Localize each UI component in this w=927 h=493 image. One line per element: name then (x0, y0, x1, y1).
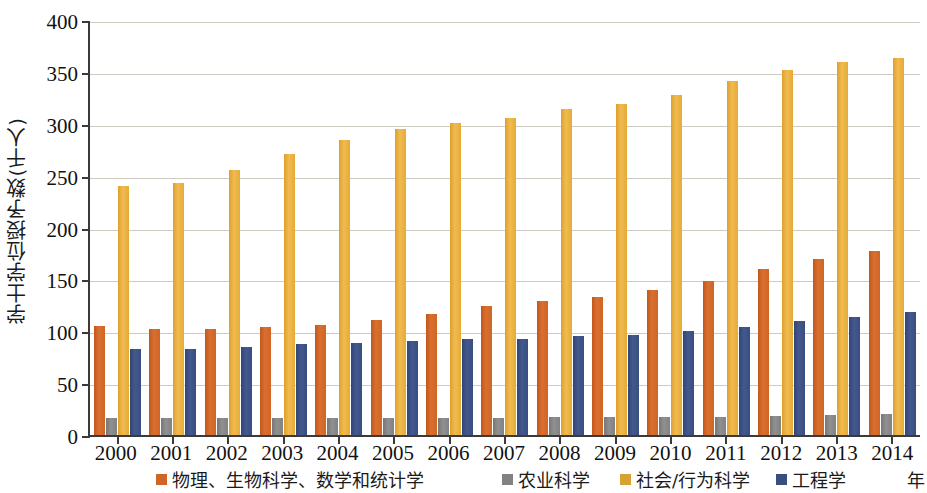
bar[interactable] (881, 414, 892, 435)
bar[interactable] (106, 418, 117, 435)
bar-group (588, 22, 643, 435)
x-axis-tick-label: 2012 (754, 441, 809, 469)
bar[interactable] (616, 104, 627, 435)
legend-swatch (502, 474, 513, 485)
x-axis-tick-label: 2007 (476, 441, 531, 469)
bar[interactable] (493, 418, 504, 435)
bar[interactable] (782, 70, 793, 435)
bar[interactable] (94, 326, 105, 435)
bar[interactable] (272, 418, 283, 435)
bar[interactable] (604, 417, 615, 435)
bar[interactable] (284, 154, 295, 435)
bar[interactable] (758, 269, 769, 435)
x-axis-tick-label: 2001 (143, 441, 198, 469)
bar-group (367, 22, 422, 435)
bar[interactable] (739, 327, 750, 435)
legend-label: 社会/行为科学 (636, 466, 750, 492)
bar[interactable] (371, 320, 382, 435)
bar[interactable] (794, 321, 805, 435)
bar[interactable] (481, 306, 492, 435)
bar[interactable] (561, 109, 572, 435)
bar-group (809, 22, 864, 435)
bar[interactable] (869, 251, 880, 435)
y-axis-tick-mark (82, 177, 90, 179)
bar[interactable] (426, 314, 437, 435)
legend-swatch (620, 474, 631, 485)
bar[interactable] (813, 259, 824, 435)
y-axis-tick-mark (82, 21, 90, 23)
bar[interactable] (395, 129, 406, 435)
y-axis-tick-mark (82, 280, 90, 282)
bar[interactable] (217, 418, 228, 435)
legend-item[interactable]: 物理、生物科学、数学和统计学 (156, 466, 424, 492)
bar[interactable] (438, 418, 449, 435)
bar[interactable] (462, 339, 473, 435)
bar[interactable] (383, 418, 394, 435)
bar[interactable] (149, 329, 160, 435)
y-axis-tick-mark (82, 384, 90, 386)
bar[interactable] (770, 416, 781, 435)
bar[interactable] (628, 335, 639, 435)
plot-area (88, 22, 920, 437)
bar[interactable] (296, 344, 307, 435)
bar[interactable] (659, 417, 670, 435)
y-axis-tick-label: 200 (47, 217, 79, 242)
bar[interactable] (592, 297, 603, 435)
bar[interactable] (573, 336, 584, 435)
bar-groups (90, 22, 920, 435)
x-axis-tick-label: 2010 (643, 441, 698, 469)
bar[interactable] (327, 418, 338, 435)
bar[interactable] (118, 186, 129, 435)
x-axis-tick-label: 2002 (199, 441, 254, 469)
bar[interactable] (727, 81, 738, 435)
legend-swatch (156, 474, 167, 485)
bar[interactable] (537, 301, 548, 435)
bar[interactable] (161, 418, 172, 435)
bar-group (145, 22, 200, 435)
bar[interactable] (837, 62, 848, 436)
legend-item[interactable]: 工程学 (776, 466, 846, 492)
bar[interactable] (185, 349, 196, 435)
bar[interactable] (715, 417, 726, 435)
bar[interactable] (205, 329, 216, 435)
legend-item[interactable]: 农业科学 (502, 466, 590, 492)
y-axis-tick-label: 250 (47, 165, 79, 190)
bar[interactable] (130, 349, 141, 435)
bar[interactable] (893, 58, 904, 435)
bar[interactable] (517, 339, 528, 435)
bar[interactable] (905, 312, 916, 435)
bar[interactable] (173, 183, 184, 435)
y-axis-tick-label: 400 (47, 10, 79, 35)
bar[interactable] (671, 95, 682, 435)
bar[interactable] (683, 331, 694, 435)
y-axis-tick-mark (82, 332, 90, 334)
y-axis-tick-label: 50 (57, 373, 78, 398)
x-axis-tick-label: 2011 (698, 441, 753, 469)
x-axis-unit-label: 年 (907, 466, 925, 492)
bar[interactable] (407, 341, 418, 435)
bar[interactable] (351, 343, 362, 435)
bar[interactable] (450, 123, 461, 435)
y-axis-title-text: 学士学位授予数(千人) (2, 117, 31, 324)
bar[interactable] (229, 170, 240, 435)
bar[interactable] (849, 317, 860, 435)
bar[interactable] (260, 327, 271, 435)
bar-group (699, 22, 754, 435)
bar[interactable] (825, 415, 836, 435)
x-axis-tick-label: 2000 (88, 441, 143, 469)
bar[interactable] (315, 325, 326, 435)
bar-group (201, 22, 256, 435)
legend-item[interactable]: 社会/行为科学 (620, 466, 750, 492)
x-axis-tick-label: 2008 (532, 441, 587, 469)
bar[interactable] (241, 347, 252, 435)
y-axis-tick-labels: 050100150200250300350400 (28, 0, 86, 460)
bar[interactable] (339, 140, 350, 435)
bar[interactable] (647, 290, 658, 435)
y-axis-tick-label: 350 (47, 61, 79, 86)
bar[interactable] (549, 417, 560, 435)
bar[interactable] (703, 281, 714, 435)
x-axis-tick-label: 2004 (310, 441, 365, 469)
chart-container: 学士学位授予数(千人) 050100150200250300350400 200… (0, 0, 927, 493)
bar[interactable] (505, 118, 516, 435)
chart-legend: 物理、生物科学、数学和统计学农业科学社会/行为科学工程学 年 (88, 466, 927, 492)
